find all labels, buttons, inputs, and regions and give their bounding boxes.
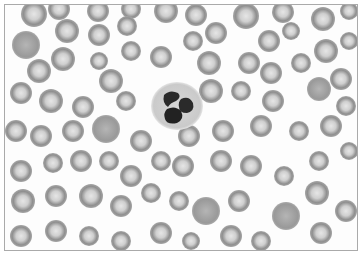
micrograph-frame: [4, 4, 358, 251]
blood-smear-image: [5, 5, 357, 250]
neutrophil: [151, 82, 203, 130]
